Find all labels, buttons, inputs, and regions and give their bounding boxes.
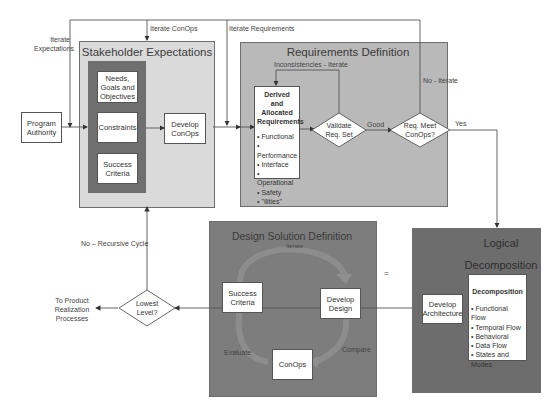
logical-title: Logical Decomposition [460,232,542,276]
derived-requirements-list: • Functional • Performance • Interface •… [257,132,297,206]
good-label: Good [367,121,384,128]
iterate-label: Iterate [286,243,303,249]
stakeholder-title: Stakeholder Expectations [80,46,214,58]
yes-label: Yes [455,120,466,127]
to-product-realization-label: To Product Realization Processes [48,296,96,323]
list-item: • Temporal Flow [471,323,524,332]
inconsistencies-label: Inconsistencies - Iterate [274,61,348,68]
design-title: Design Solution Definition [209,230,375,242]
develop-conops-box: Develop ConOps [164,113,206,144]
decomposition-box: Decomposition • Functional Flow • Tempor… [468,274,527,361]
develop-architecture-box: Develop Architecture [422,294,463,324]
validate-req-set-label: Validate Req. Set [322,121,356,139]
no-recursive-cycle-label: No – Recursive Cycle [81,240,148,247]
decomposition-list: • Functional Flow • Temporal Flow • Beha… [471,304,524,369]
success-criteria-box: Success Criteria [97,153,138,184]
requirements-title: Requirements Definition [240,46,446,58]
program-authority-box: Program Authority [21,112,62,143]
derived-requirements-title: Derived and Allocated Requirements [257,90,297,126]
iterate-conops-label: Iterate ConOps [150,25,197,32]
equal-marker: = [384,269,389,278]
list-item: • Interface [257,160,297,169]
lowest-level-label: Lowest Level? [131,299,163,317]
req-meet-conops-label: Req. Meet ConOps? [400,121,440,139]
evaluate-label: Evaluate [224,349,251,356]
no-iterate-label: No - Iterate [423,77,458,84]
list-item: • Operational [257,169,297,188]
list-item: • Data Flow [471,341,524,350]
list-item: • Safety [257,188,297,197]
iterate-requirements-label: Iterate Requirements [229,25,294,32]
list-item: • "ilities" [257,197,297,206]
decomposition-title: Decomposition [471,287,524,296]
list-item: • States and Modes [471,350,524,369]
compare-label: Compare [342,346,371,353]
list-item: • Functional Flow [471,304,524,323]
develop-design-box: Develop Design [320,288,361,319]
list-item: • Functional [257,132,297,141]
list-item: • Behavioral [471,332,524,341]
list-item: • Performance [257,141,297,160]
design-conops-box: ConOps [272,349,313,380]
iterate-expectations-label: Iterate Expectations [34,35,70,53]
constraints-box: Constraints [97,112,138,143]
needs-goals-objectives-box: Needs, Goals and Objectives [97,71,138,103]
design-success-criteria-box: Success Criteria [222,282,263,313]
derived-requirements-box: Derived and Allocated Requirements • Fun… [254,86,300,179]
